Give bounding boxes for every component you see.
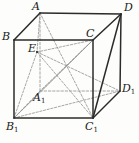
segment-E-C	[37, 40, 93, 52]
vertex-label-A1: A1	[33, 92, 45, 103]
edge-D-D1	[120, 14, 121, 91]
vertex-label-A: A	[32, 1, 40, 12]
segment-B1-D1	[14, 91, 120, 118]
vertex-label-C1: C1	[85, 121, 98, 132]
vertex-label-E: E	[28, 43, 36, 54]
geometry-figure: A B C D E A1 B1 C1 D1	[0, 0, 139, 143]
segment-B1-E	[14, 52, 37, 118]
edge-A-B	[14, 13, 40, 40]
cube-diagram-svg	[0, 0, 139, 143]
vertex-label-D1: D1	[122, 83, 135, 94]
vertex-label-B1: B1	[6, 121, 19, 132]
edge-A-D	[40, 13, 121, 14]
vertex-dots	[36, 51, 38, 53]
segment-E-D1	[37, 52, 120, 91]
vertex-dot-E	[36, 51, 38, 53]
vertex-label-B: B	[2, 31, 10, 42]
vertex-label-D: D	[124, 2, 133, 13]
vertex-label-C: C	[86, 28, 94, 39]
diagonal-D-C1	[93, 14, 121, 118]
